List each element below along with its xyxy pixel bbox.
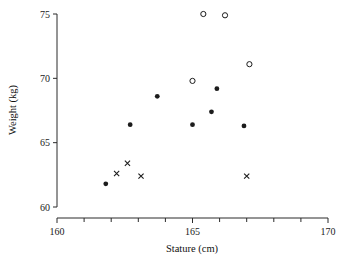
x-tick-label: 160 [50,226,65,237]
data-point-open-circle [222,13,227,18]
data-point-filled-circle [128,122,133,127]
x-tick-label: 165 [185,226,200,237]
data-points-layer [103,11,252,186]
y-axis: 60657075 [40,9,57,213]
data-point-filled-circle [209,109,214,114]
x-axis-title: Stature (cm) [166,243,219,255]
data-point-filled-circle [242,124,247,129]
data-point-cross [125,161,130,166]
series-cross [114,161,249,179]
data-point-open-circle [247,62,252,67]
y-tick-label: 60 [40,202,50,213]
data-point-filled-circle [190,122,195,127]
data-point-filled-circle [103,181,108,186]
y-tick-label: 65 [40,137,50,148]
data-point-cross [114,171,119,176]
x-axis-ticks [57,218,328,223]
y-axis-ticks [53,14,57,207]
data-point-filled-circle [155,94,160,99]
plot-canvas: 60657075 160165170 Stature (cm) Weight (… [0,0,345,261]
data-point-cross [244,174,249,179]
data-point-open-circle [190,78,195,83]
data-point-open-circle [201,11,206,16]
x-tick-label: 170 [321,226,336,237]
series-open-circle [190,11,252,83]
x-axis: 160165170 [50,218,336,237]
y-axis-title: Weight (kg) [7,84,19,135]
y-axis-tick-labels: 60657075 [40,9,50,213]
data-point-cross [138,174,143,179]
x-axis-tick-labels: 160165170 [50,226,336,237]
y-tick-label: 70 [40,73,50,84]
y-tick-label: 75 [40,9,50,20]
scatter-plot-figure: 60657075 160165170 Stature (cm) Weight (… [0,0,345,261]
series-filled-circle [103,86,246,186]
data-point-filled-circle [214,86,219,91]
